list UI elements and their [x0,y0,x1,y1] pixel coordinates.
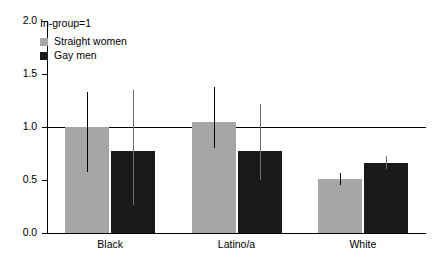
error-bar-black-gay-men [133,90,134,206]
legend-label-gay-men: Gay men [54,49,97,62]
y-tick-label: 1.5 [5,67,37,79]
legend: In-group=1 Straight women Gay men [40,17,127,63]
y-tick-label: 1.0 [5,120,37,132]
error-bar-latino-a-gay-men [260,104,261,180]
x-axis-label-white: White [313,238,413,250]
bar-white-straight-women [318,179,362,233]
error-bar-black-straight-women [87,92,88,172]
x-axis-line [47,233,426,234]
x-axis-label-latino-a: Latino/a [187,238,287,250]
y-tick-mark [42,233,47,234]
legend-item-straight-women: Straight women [40,35,127,48]
legend-swatch-icon-straight-women [40,38,48,46]
y-tick-label: 0.5 [5,173,37,185]
y-tick-label: 0.0 [5,226,37,238]
error-bar-white-gay-men [386,156,387,170]
y-tick-label: 2.0 [5,14,37,26]
bar-chart: 0.00.51.01.52.0 BlackLatino/aWhite In-gr… [0,0,445,266]
legend-title: In-group=1 [40,17,127,29]
bar-white-gay-men [364,163,408,233]
error-bar-white-straight-women [340,173,341,186]
error-bar-latino-a-straight-women [214,87,215,148]
legend-label-straight-women: Straight women [54,35,127,48]
legend-swatch-icon-gay-men [40,52,48,60]
legend-item-gay-men: Gay men [40,49,127,62]
x-axis-label-black: Black [60,238,160,250]
